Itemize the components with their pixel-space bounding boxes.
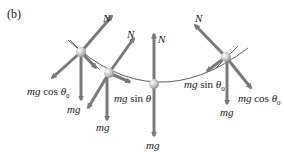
mg-sin-theta-label: mg sin θ: [114, 93, 151, 104]
mg-cos-arrow: [226, 57, 251, 88]
normal-label: N: [127, 29, 134, 40]
ball: [104, 68, 114, 78]
mg-cos-theta0-label: mg cos θ0: [238, 93, 281, 107]
ball: [221, 52, 231, 62]
mg-cos-arrow: [52, 52, 81, 78]
panel-label: (b): [7, 8, 21, 20]
normal-label: N: [195, 13, 202, 24]
gravity-label: mg: [146, 140, 159, 151]
gravity-label: mg: [220, 107, 233, 118]
mg-cos-theta0-label: mg cos θ0: [27, 86, 70, 100]
ball: [149, 79, 159, 89]
gravity-label: mg: [67, 104, 80, 115]
bottom-position: [149, 34, 159, 136]
mg-sin-theta0-label: mg sin θ0: [184, 79, 225, 93]
left-mid-position: [88, 38, 134, 120]
normal-force-arrow: [109, 38, 134, 73]
normal-label: N: [158, 34, 165, 45]
pendulum-force-diagram: [0, 0, 284, 152]
gravity-label: mg: [96, 122, 109, 133]
normal-force-arrow: [195, 25, 226, 57]
ball: [76, 47, 86, 57]
normal-label: N: [103, 13, 110, 24]
